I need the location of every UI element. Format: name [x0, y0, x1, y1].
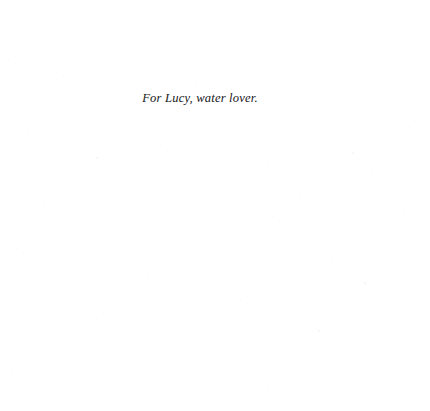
paper-grain: [0, 0, 430, 411]
dedication-block: For Lucy, water lover.: [0, 88, 400, 107]
dedication-page: For Lucy, water lover.: [0, 0, 430, 411]
dedication-text: For Lucy, water lover.: [142, 90, 258, 107]
